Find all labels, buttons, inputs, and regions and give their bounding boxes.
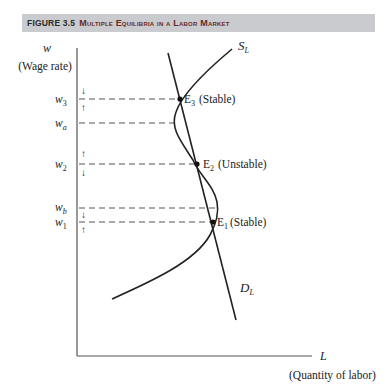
equilibrium-e3-label: E3(Stable) bbox=[184, 93, 236, 108]
arrow-down-wb: ↓ bbox=[81, 209, 86, 220]
tick-w3: w3 bbox=[55, 93, 67, 108]
equilibrium-e2-label: E2(Unstable) bbox=[203, 158, 267, 173]
equilibrium-e2-dot bbox=[194, 161, 199, 166]
y-axis-label: w bbox=[43, 41, 51, 55]
supply-curve bbox=[112, 49, 232, 299]
arrow-up-w1: ↑ bbox=[81, 224, 86, 235]
arrow-down-w3: ↓ bbox=[81, 85, 86, 96]
equilibrium-e3-dot bbox=[177, 96, 182, 101]
supply-label: SL bbox=[238, 38, 250, 55]
tick-wb: wb bbox=[55, 201, 67, 216]
equilibrium-e1-label: E1(Stable) bbox=[217, 216, 267, 231]
demand-label: DL bbox=[239, 280, 254, 297]
x-axis-label: L bbox=[319, 349, 327, 363]
wage-guides bbox=[79, 99, 217, 222]
arrow-up-w2: ↑ bbox=[81, 148, 86, 159]
tick-w1: w1 bbox=[55, 216, 67, 231]
labor-market-diagram: w (Wage rate) L (Quantity of labor) w3 w… bbox=[0, 0, 388, 389]
y-axis-sublabel: (Wage rate) bbox=[18, 60, 72, 73]
arrow-down-w2: ↓ bbox=[81, 167, 86, 178]
tick-w2: w2 bbox=[55, 158, 67, 173]
tick-wa: wa bbox=[55, 117, 67, 132]
x-axis-sublabel: (Quantity of labor) bbox=[289, 369, 376, 382]
arrow-up-w3: ↑ bbox=[81, 102, 86, 113]
equilibrium-e1-dot bbox=[210, 219, 215, 224]
